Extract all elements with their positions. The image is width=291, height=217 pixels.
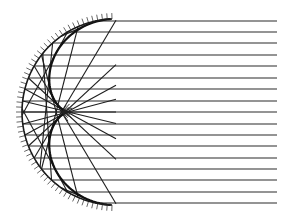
hatch-mark (18, 131, 24, 132)
hatch-mark (26, 153, 31, 156)
hatch-mark (22, 145, 28, 147)
hatch-mark (77, 198, 79, 204)
hatch-mark (97, 15, 98, 21)
hatch-mark (37, 51, 42, 55)
hatch-mark (92, 16, 93, 22)
hatch-mark (59, 30, 62, 35)
hatch-mark (64, 27, 67, 32)
hatch-mark (97, 203, 98, 209)
hatch-mark (82, 19, 84, 25)
hatch-mark (34, 55, 39, 58)
hatch-mark (107, 13, 108, 19)
hatch-mark (31, 59, 36, 62)
hatch-mark (34, 166, 39, 169)
hatch-mark (17, 126, 23, 127)
hatch-mark (51, 36, 55, 41)
reflected-rays (22, 20, 116, 204)
hatch-mark (48, 40, 52, 44)
hatch-mark (107, 205, 108, 211)
hatch-mark (19, 136, 25, 138)
hatch-mark (37, 170, 42, 174)
hatch-mark (102, 204, 103, 210)
ray-diagram (0, 0, 291, 217)
hatch-mark (31, 162, 36, 165)
hatch-mark (29, 63, 34, 66)
hatch-mark (51, 183, 55, 188)
hatch-mark (21, 82, 27, 84)
hatch-mark (68, 25, 71, 30)
hatch-mark (17, 122, 23, 123)
hatch-mark (19, 87, 25, 89)
hatch-mark (22, 77, 28, 79)
hatch-mark (18, 92, 24, 93)
hatch-mark (64, 192, 67, 197)
hatch-mark (55, 186, 59, 191)
hatch-mark (40, 173, 45, 177)
hatch-mark (73, 196, 76, 201)
hatch-mark (24, 73, 30, 75)
hatch-mark (17, 97, 23, 98)
hatch-mark (87, 17, 89, 23)
hatch-mark (44, 177, 48, 181)
hatch-mark (59, 189, 62, 194)
hatch-mark (40, 47, 45, 51)
hatch-mark (44, 43, 48, 47)
hatch-mark (82, 200, 84, 206)
hatch-mark (21, 140, 27, 142)
hatch-mark (68, 194, 71, 199)
hatch-mark (77, 20, 79, 26)
hatch-mark (17, 102, 23, 103)
hatch-mark (26, 68, 31, 71)
hatch-mark (48, 180, 52, 184)
hatch-mark (73, 23, 76, 28)
hatch-mark (24, 149, 30, 151)
hatch-mark (29, 158, 34, 161)
hatch-mark (87, 201, 89, 207)
hatch-mark (55, 33, 59, 38)
hatch-mark (102, 14, 103, 20)
hatch-mark (92, 202, 93, 208)
